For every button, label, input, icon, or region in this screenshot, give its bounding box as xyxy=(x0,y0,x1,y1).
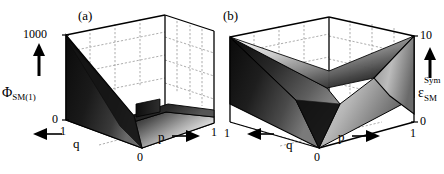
panel-b-p-tick-far: 1 xyxy=(410,126,416,141)
panel-b: (b) 10 0 εSymSM 1 q 0 p 1 xyxy=(222,0,444,174)
panel-b-q-tick-far: 1 xyxy=(224,126,230,141)
figure-root: (a) 1000 0 ΦSM(1) 1 q 0 p 1 xyxy=(0,0,444,174)
panel-b-ztick-top: 10 xyxy=(420,28,432,43)
panel-b-zaxis-label-sup: Sym xyxy=(424,76,441,85)
panel-a-p-tick-far: 1 xyxy=(211,125,217,140)
panel-a-origin-tick: 0 xyxy=(137,150,143,165)
panel-b-zaxis-label: εSymSM xyxy=(418,86,437,102)
left-arrow-icon xyxy=(33,128,62,140)
panel-b-tag: (b) xyxy=(223,8,238,24)
panel-b-origin-tick: 0 xyxy=(314,150,320,165)
panel-b-plot xyxy=(222,0,444,174)
panel-b-p-axis-name: p xyxy=(338,129,345,145)
panel-a-zaxis-label: ΦSM(1) xyxy=(2,86,36,102)
left-arrow-icon xyxy=(247,128,274,140)
panel-a-ztick-top: 1000 xyxy=(23,27,47,42)
up-arrow-icon xyxy=(424,47,436,78)
panel-a-q-tick-far: 1 xyxy=(60,124,66,139)
panel-a: (a) 1000 0 ΦSM(1) 1 q 0 p 1 xyxy=(0,0,222,174)
panel-a-ztick-bottom: 0 xyxy=(52,112,58,127)
panel-b-zaxis-label-sub: SM xyxy=(424,93,437,103)
panel-a-zaxis-label-sub: SM(1) xyxy=(12,92,36,102)
panel-a-p-axis-name: p xyxy=(158,129,165,145)
panel-a-tag: (a) xyxy=(78,8,92,24)
up-arrow-icon xyxy=(33,43,45,76)
panel-a-q-axis-name: q xyxy=(73,136,80,152)
panel-a-zaxis-label-main: Φ xyxy=(2,85,12,100)
panel-b-q-axis-name: q xyxy=(286,137,293,153)
panel-b-ztick-bottom: 0 xyxy=(420,114,426,129)
